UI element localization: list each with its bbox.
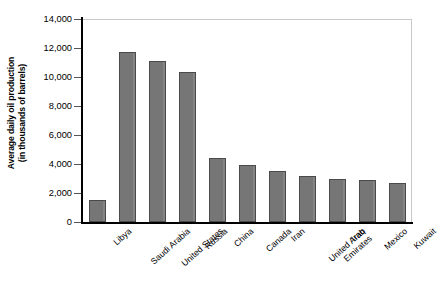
bar <box>389 183 406 222</box>
y-axis-tick-label: 14,000 <box>28 14 72 24</box>
bar-column <box>239 19 256 222</box>
bar-column <box>269 19 286 222</box>
y-axis-tick-labels: 02,0004,0006,0008,00010,00012,00014,000 <box>25 0 72 289</box>
bar <box>149 61 166 222</box>
bar-column <box>359 19 376 222</box>
x-axis-label: Kuwait <box>412 226 438 251</box>
x-axis-label: Canada <box>263 226 292 254</box>
bar <box>209 158 226 222</box>
x-axis-label: Libya <box>111 226 133 247</box>
bar <box>89 200 106 222</box>
y-axis-tick-label: 10,000 <box>28 72 72 82</box>
y-axis-tick-label: 8,000 <box>28 101 72 111</box>
y-axis-tick-label: 12,000 <box>28 43 72 53</box>
bar-series <box>83 19 412 222</box>
bar-column <box>179 19 196 222</box>
bar-column <box>209 19 226 222</box>
bar <box>239 165 256 222</box>
bar-column <box>299 19 316 222</box>
bar-column <box>89 19 106 222</box>
bar-column <box>329 19 346 222</box>
y-axis-title-line-1: Average daily oil production <box>6 57 16 169</box>
x-axis-label: Iran <box>289 226 307 243</box>
bar <box>179 72 196 222</box>
y-axis-tick-label: 4,000 <box>28 159 72 169</box>
bar <box>119 52 136 222</box>
x-axis-category-labels: LibyaSaudi ArabiaUnited StatesRussiaChin… <box>83 224 423 289</box>
bar-column <box>149 19 166 222</box>
bar-column <box>389 19 406 222</box>
x-axis-label: Mexico <box>382 226 409 252</box>
bar <box>299 176 316 222</box>
bar <box>329 179 346 222</box>
bar <box>269 171 286 222</box>
y-axis-tick-label: 2,000 <box>28 188 72 198</box>
y-axis-tick-label: 0 <box>28 217 72 227</box>
bar <box>359 180 376 222</box>
bar-column <box>119 19 136 222</box>
y-axis-tick-label: 6,000 <box>28 130 72 140</box>
x-axis-label: China <box>231 226 255 249</box>
